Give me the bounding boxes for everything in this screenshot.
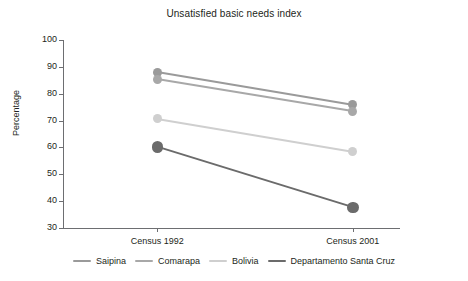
y-tick-label: 50 bbox=[29, 169, 57, 178]
legend-swatch-icon bbox=[209, 260, 227, 262]
chart-legend: SaipinaComarapaBoliviaDepartamento Santa… bbox=[0, 256, 468, 266]
data-point bbox=[152, 141, 163, 152]
data-point bbox=[347, 202, 358, 213]
series-line-segment bbox=[157, 146, 353, 208]
series-departamento-santa-cruz bbox=[63, 40, 400, 228]
chart-figure: Unsatisfied basic needs index Percentage… bbox=[0, 0, 468, 281]
legend-label: Saipina bbox=[96, 256, 126, 266]
x-tick-label: Census 2001 bbox=[293, 236, 413, 246]
y-tick-label: 30 bbox=[29, 223, 57, 232]
y-tick-mark bbox=[59, 228, 63, 229]
x-tick-mark bbox=[353, 228, 354, 232]
x-tick-label: Census 1992 bbox=[97, 236, 217, 246]
x-tick-mark bbox=[157, 228, 158, 232]
legend-swatch-icon bbox=[73, 260, 91, 262]
legend-label: Bolivia bbox=[232, 256, 259, 266]
chart-title: Unsatisfied basic needs index bbox=[0, 8, 468, 19]
plot-area: 30405060708090100 Census 1992Census 2001 bbox=[63, 40, 400, 228]
legend-item-saipina[interactable]: Saipina bbox=[73, 256, 126, 266]
legend-item-comarapa[interactable]: Comarapa bbox=[135, 256, 200, 266]
y-tick-label: 60 bbox=[29, 142, 57, 151]
legend-label: Departamento Santa Cruz bbox=[291, 256, 396, 266]
y-tick-label: 100 bbox=[29, 35, 57, 44]
legend-item-departamento-santa-cruz[interactable]: Departamento Santa Cruz bbox=[268, 256, 396, 266]
legend-swatch-icon bbox=[135, 260, 153, 262]
y-tick-label: 70 bbox=[29, 116, 57, 125]
legend-swatch-icon bbox=[268, 260, 286, 263]
y-tick-label: 90 bbox=[29, 62, 57, 71]
y-axis-title: Percentage bbox=[11, 75, 21, 151]
y-tick-label: 40 bbox=[29, 196, 57, 205]
legend-label: Comarapa bbox=[158, 256, 200, 266]
x-axis-line bbox=[63, 228, 400, 229]
legend-item-bolivia[interactable]: Bolivia bbox=[209, 256, 259, 266]
y-tick-label: 80 bbox=[29, 89, 57, 98]
